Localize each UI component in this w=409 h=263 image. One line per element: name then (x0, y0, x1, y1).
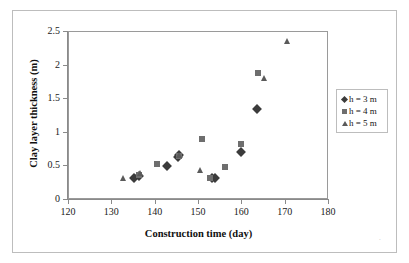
data-point (197, 167, 203, 173)
x-axis-tick (241, 200, 242, 204)
diamond-marker-icon (341, 95, 348, 102)
data-point (199, 136, 205, 142)
legend-item: h = 4 m (340, 105, 385, 117)
data-point (255, 70, 261, 76)
x-axis-tick-label: 170 (265, 206, 305, 217)
y-axis-tick-label: 2.5 (20, 26, 60, 36)
x-axis-tick (155, 200, 156, 204)
x-axis-tick (111, 200, 112, 204)
data-point (236, 147, 246, 157)
y-axis-tick-label: 1.5 (20, 93, 60, 103)
legend-label: h = 3 m (349, 94, 377, 105)
x-axis-tick-label: 150 (178, 206, 218, 217)
data-points-layer (69, 32, 327, 198)
x-axis-title: Construction time (day) (68, 228, 329, 239)
legend-item: h = 3 m (340, 93, 385, 105)
corner-mark: . (379, 234, 381, 242)
x-axis-tick-label: 160 (221, 206, 261, 217)
data-point (154, 161, 160, 167)
y-axis-tick (63, 31, 67, 32)
legend-label: h = 4 m (349, 106, 377, 117)
y-axis-title: Clay layer thickness (m) (28, 34, 39, 194)
x-axis-tick-label: 180 (308, 206, 348, 217)
x-axis-tick-label: 130 (91, 206, 131, 217)
y-axis-tick-label: 2 (20, 60, 60, 70)
data-point (222, 164, 228, 170)
y-axis-tick (63, 165, 67, 166)
x-axis-tick (285, 200, 286, 204)
plot-area (68, 31, 328, 199)
data-point (284, 38, 290, 44)
y-axis-tick (63, 65, 67, 66)
square-marker-icon (342, 109, 347, 114)
chart-legend: h = 3 mh = 4 mh = 5 m (336, 89, 388, 133)
x-axis-tick (328, 200, 329, 204)
y-axis-tick (63, 132, 67, 133)
x-axis-tick-label: 120 (48, 206, 88, 217)
data-point (162, 161, 172, 171)
legend-item: h = 5 m (340, 117, 385, 129)
data-point (120, 175, 126, 181)
y-axis-tick-label: 0.5 (20, 160, 60, 170)
y-axis-tick (63, 199, 67, 200)
data-point (176, 152, 182, 158)
data-point (207, 175, 213, 181)
y-axis-tick-label: 0 (20, 194, 60, 204)
data-point (137, 170, 143, 176)
x-axis-tick (198, 200, 199, 204)
legend-label: h = 5 m (349, 118, 377, 129)
figure-canvas: 00.511.522.5120130140150160170180 Constr… (0, 0, 409, 263)
y-axis-tick (63, 98, 67, 99)
legend-diamond-icon (340, 97, 349, 102)
data-point (238, 141, 244, 147)
x-axis-tick-label: 140 (135, 206, 175, 217)
triangle-marker-icon (342, 121, 348, 126)
y-axis-line (67, 31, 68, 200)
legend-triangle-icon (340, 121, 349, 126)
data-point (261, 75, 267, 81)
x-axis-tick (68, 200, 69, 204)
data-point (252, 104, 262, 114)
y-axis-tick-label: 1 (20, 127, 60, 137)
legend-square-icon (340, 109, 349, 114)
